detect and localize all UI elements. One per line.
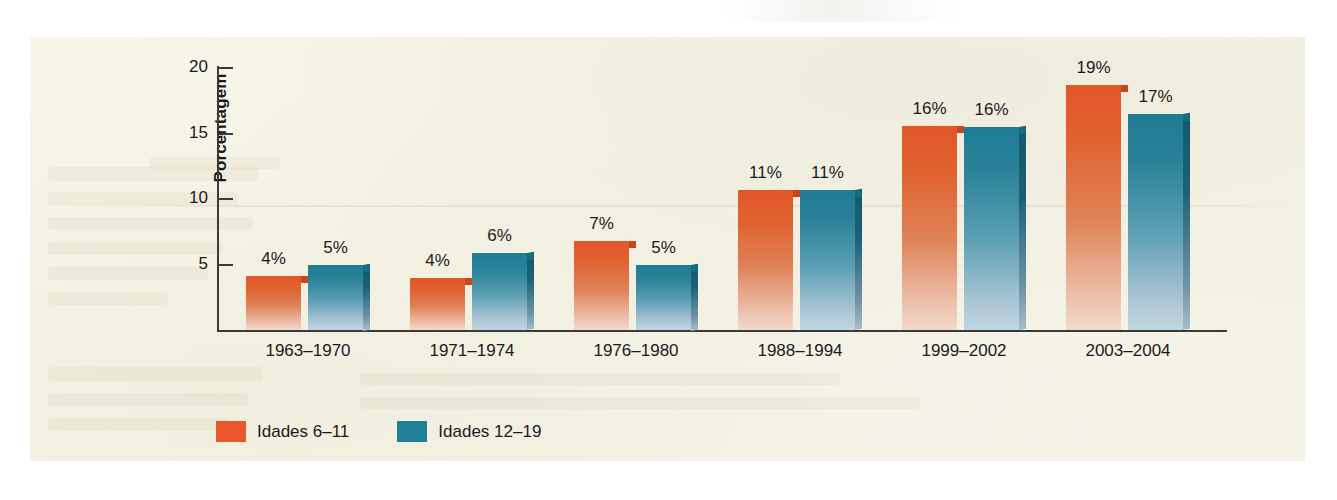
- bar-1988–1994-Idades-12–19[interactable]: [800, 190, 855, 330]
- legend-item-ages-6-11[interactable]: Idades 6–11: [216, 421, 349, 442]
- bar-top-3d: [1019, 127, 1026, 134]
- bar-top-3d: [957, 126, 964, 133]
- chart-legend: Idades 6–11 Idades 12–19: [216, 421, 541, 442]
- y-tick-label-20: 20: [168, 57, 208, 77]
- bar-face: [246, 276, 301, 330]
- bar-top-3d: [363, 265, 370, 272]
- bar-1976–1980-Idades-12–19[interactable]: [636, 265, 691, 331]
- bar-face: [574, 241, 629, 330]
- data-label-2003–2004-Idades-12–19: 17%: [1121, 87, 1191, 107]
- y-tick-label-15: 15: [168, 123, 208, 143]
- y-tick-20: [219, 67, 233, 69]
- bar-side-3d: [691, 263, 698, 330]
- bar-1963–1970-Idades-6–11[interactable]: [246, 276, 301, 330]
- bar-face: [410, 278, 465, 330]
- bar-1999–2002-Idades-12–19[interactable]: [964, 127, 1019, 330]
- bar-face: [636, 265, 691, 331]
- bar-top-3d: [793, 190, 800, 197]
- y-tick-15: [219, 133, 233, 135]
- category-label-2003–2004: 2003–2004: [1028, 341, 1228, 361]
- legend-swatch-orange: [216, 421, 246, 442]
- bar-side-3d: [1121, 84, 1128, 330]
- data-label-1988–1994-Idades-6–11: 11%: [731, 163, 801, 183]
- bar-side-3d: [301, 275, 308, 330]
- legend-item-ages-12-19[interactable]: Idades 12–19: [397, 421, 541, 442]
- bar-side-3d: [793, 189, 800, 330]
- bar-side-3d: [855, 189, 862, 330]
- data-label-1999–2002-Idades-6–11: 16%: [895, 99, 965, 119]
- legend-swatch-teal: [397, 421, 427, 442]
- y-tick-5: [219, 264, 233, 266]
- data-label-1963–1970-Idades-12–19: 5%: [301, 238, 371, 258]
- y-tick-10: [219, 198, 233, 200]
- bar-face: [1066, 85, 1121, 330]
- bar-top-3d: [1183, 114, 1190, 121]
- legend-label-ages-12-19: Idades 12–19: [438, 422, 541, 442]
- bar-top-3d: [301, 276, 308, 283]
- bar-1988–1994-Idades-6–11[interactable]: [738, 190, 793, 330]
- bar-side-3d: [527, 251, 534, 330]
- data-label-1963–1970-Idades-6–11: 4%: [239, 249, 309, 269]
- bar-face: [964, 127, 1019, 330]
- bar-chart: Porcentagem 5101520 4%5%4%6%7%5%11%11%16…: [0, 0, 1337, 500]
- bar-1971–1974-Idades-12–19[interactable]: [472, 253, 527, 330]
- bar-face: [738, 190, 793, 330]
- bar-face: [1128, 114, 1183, 330]
- bar-top-3d: [527, 253, 534, 260]
- bar-side-3d: [363, 263, 370, 330]
- bar-top-3d: [691, 265, 698, 272]
- bar-top-3d: [855, 190, 862, 197]
- bar-2003–2004-Idades-6–11[interactable]: [1066, 85, 1121, 330]
- data-label-1976–1980-Idades-6–11: 7%: [567, 214, 637, 234]
- bar-2003–2004-Idades-12–19[interactable]: [1128, 114, 1183, 330]
- bar-side-3d: [1019, 126, 1026, 330]
- bar-face: [800, 190, 855, 330]
- bar-1999–2002-Idades-6–11[interactable]: [902, 126, 957, 330]
- data-label-1999–2002-Idades-12–19: 16%: [957, 100, 1027, 120]
- data-label-1971–1974-Idades-6–11: 4%: [403, 251, 473, 271]
- bar-face: [308, 265, 363, 331]
- data-label-1988–1994-Idades-12–19: 11%: [793, 163, 863, 183]
- bar-1976–1980-Idades-6–11[interactable]: [574, 241, 629, 330]
- data-label-1976–1980-Idades-12–19: 5%: [629, 238, 699, 258]
- data-label-2003–2004-Idades-6–11: 19%: [1059, 58, 1129, 78]
- bar-side-3d: [957, 124, 964, 330]
- y-tick-label-5: 5: [168, 254, 208, 274]
- bar-side-3d: [1183, 113, 1190, 330]
- y-tick-label-10: 10: [168, 188, 208, 208]
- legend-label-ages-6-11: Idades 6–11: [257, 422, 349, 442]
- bar-1971–1974-Idades-6–11[interactable]: [410, 278, 465, 330]
- bar-1963–1970-Idades-12–19[interactable]: [308, 265, 363, 331]
- bar-top-3d: [465, 278, 472, 285]
- bar-face: [472, 253, 527, 330]
- x-axis-line: [217, 330, 1227, 332]
- data-label-1971–1974-Idades-12–19: 6%: [465, 226, 535, 246]
- bar-face: [902, 126, 957, 330]
